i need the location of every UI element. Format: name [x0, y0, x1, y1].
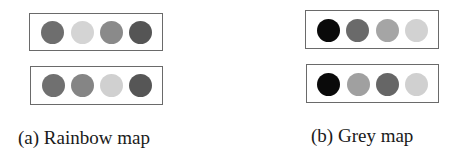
rainbow-row-2-swatch-3 [100, 74, 123, 97]
grey-row-2-swatch-3 [376, 73, 399, 96]
rainbow-row-1-swatch-1 [41, 21, 64, 44]
grey-row-1-swatch-3 [376, 19, 399, 42]
grey-row-1-box [305, 10, 439, 49]
grey-row-2-swatch-2 [347, 73, 370, 96]
rainbow-row-2-swatch-4 [129, 74, 152, 97]
rainbow-row-2-swatch-1 [42, 74, 65, 97]
caption-grey-map: (b) Grey map [311, 126, 413, 145]
rainbow-row-2-swatch-2 [71, 74, 94, 97]
rainbow-row-1-swatch-4 [129, 21, 152, 44]
grey-row-1-swatch-2 [346, 19, 369, 42]
rainbow-row-1-swatch-2 [71, 21, 94, 44]
grey-row-1-swatch-1 [317, 19, 340, 42]
rainbow-row-1-box [29, 13, 163, 51]
grey-row-2-swatch-1 [317, 73, 340, 96]
grey-row-2-box [306, 64, 439, 103]
rainbow-row-2-box [30, 66, 163, 105]
grey-row-2-swatch-4 [405, 73, 428, 96]
rainbow-row-1-swatch-3 [100, 21, 123, 44]
caption-rainbow-map: (a) Rainbow map [18, 128, 150, 147]
grey-row-1-swatch-4 [405, 19, 428, 42]
